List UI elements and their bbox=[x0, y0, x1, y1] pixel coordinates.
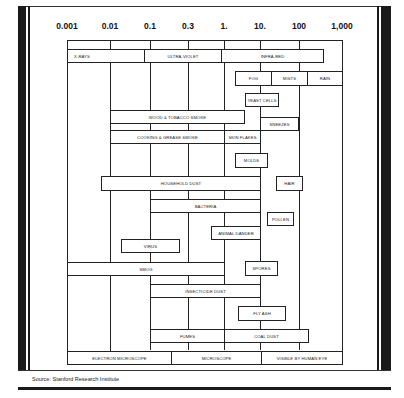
particle-skin-flakes: SKIN FLAKES bbox=[224, 130, 261, 144]
band-rain: RAIN bbox=[307, 71, 343, 86]
gridline-0.01 bbox=[110, 40, 111, 365]
tick-label: 1,000 bbox=[331, 21, 352, 31]
gridline-1 bbox=[224, 40, 225, 350]
band-microscope: MICROSCOPE bbox=[171, 351, 262, 365]
gridline-0.1 bbox=[150, 40, 151, 350]
particle-insecticide-dust: INSECTICIDE DUST bbox=[150, 284, 261, 298]
particle-fly-ash: FLY ASH bbox=[238, 306, 286, 321]
frame-right-inner-bar bbox=[377, 6, 379, 371]
band-x-rays: X-RAYS bbox=[67, 49, 145, 63]
particle-coal-dust: COAL DUST bbox=[224, 329, 309, 343]
bottom-rule bbox=[18, 387, 391, 390]
band-ultra-violet: ULTRA-VIOLET bbox=[144, 49, 222, 63]
particle-virus: VIRUS bbox=[121, 239, 180, 253]
particle-animal-dander: ANIMAL DANDER bbox=[211, 226, 261, 240]
particle-fumes: FUMES bbox=[150, 329, 225, 343]
tick-label: 0.3 bbox=[182, 21, 194, 31]
band-mists: MISTS bbox=[271, 71, 308, 86]
gridline-0.3 bbox=[188, 40, 189, 350]
frame-left-inner-bar bbox=[28, 6, 30, 371]
tick-label: 0.1 bbox=[144, 21, 156, 31]
particle-spores: SPORES bbox=[245, 261, 278, 276]
band-electron-microscope: ELECTRON MICROSCOPE bbox=[67, 351, 172, 365]
source-caption: Source: Stanford Research Institute bbox=[32, 376, 119, 382]
frame-right-bar bbox=[381, 6, 391, 371]
gridline-1000 bbox=[342, 40, 343, 365]
tick-label: 1. bbox=[220, 21, 227, 31]
particle-household-dust: HOUSEHOLD DUST bbox=[101, 176, 261, 191]
gridline-10 bbox=[260, 40, 261, 350]
particle-cooking-grease-smoke: COOKING & GREASE SMOKE bbox=[110, 130, 225, 144]
band-infra-red: INFRA-RED bbox=[221, 49, 324, 63]
tick-label: 100 bbox=[292, 21, 306, 31]
particle-smog: SMOG bbox=[67, 262, 225, 276]
tick-label: 0.01 bbox=[102, 21, 119, 31]
frame-left-bar bbox=[18, 6, 26, 371]
axis-line bbox=[67, 40, 343, 41]
particle-yeast-cells: YEAST CELLS bbox=[245, 93, 279, 107]
particle-bacteria: BACTERIA bbox=[150, 199, 261, 213]
tick-label: 10. bbox=[254, 21, 266, 31]
frame-top-border bbox=[18, 6, 390, 7]
gridline-100 bbox=[299, 40, 300, 350]
frame-bottom-border bbox=[18, 370, 391, 371]
particle-wood-tobacco-smoke: WOOD & TOBACCO SMOKE bbox=[110, 110, 245, 124]
particle-sneezes: SNEEZES bbox=[260, 117, 299, 131]
particle-hair: HAIR bbox=[276, 176, 303, 191]
particle-pollen: POLLEN bbox=[267, 212, 294, 226]
gridline-0.001 bbox=[67, 40, 68, 365]
band-fog: FOG bbox=[235, 71, 272, 86]
particle-molds: MOLDS bbox=[235, 153, 268, 168]
tick-label: 0.001 bbox=[56, 21, 77, 31]
band-visible-by-human-eye: VISIBLE BY HUMAN EYE bbox=[261, 351, 343, 365]
